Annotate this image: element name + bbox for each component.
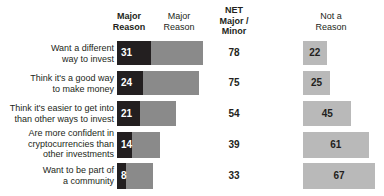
row-category-label: Think it's a good wayto make money — [2, 73, 114, 94]
row-category-label-line: Think it's easier to get into — [2, 103, 114, 114]
bar-segment-minor-reason — [151, 41, 203, 65]
net-value: 78 — [212, 47, 256, 58]
bar-segment-minor-reason — [143, 71, 199, 95]
stacked-bar-chart: Major Reason Major Reason NET Major / Mi… — [0, 0, 384, 196]
bar-value-major-reason: 31 — [121, 48, 132, 58]
bar-value-not-a-reason: 45 — [322, 109, 333, 119]
column-header-major-reason-secondary-line2: Reason — [156, 22, 202, 33]
bar-value-not-a-reason: 61 — [330, 140, 341, 150]
column-header-net-line2: Major / — [204, 16, 264, 27]
bar-segment-minor-reason — [140, 101, 176, 126]
row-category-label-line: Think it's a good way — [2, 73, 114, 84]
column-header-not-a-reason-line1: Not a — [296, 11, 366, 22]
bar-value-major-reason: 24 — [121, 78, 132, 88]
bar-not-a-reason: 22 — [303, 41, 327, 65]
row-category-label-line: other investments — [2, 149, 114, 160]
column-header-net-line3: Minor — [204, 26, 264, 37]
column-header-major-reason-primary: Major Reason — [106, 11, 152, 32]
column-header-net-major-minor: NET Major / Minor — [204, 5, 264, 37]
bar-segment-minor-reason — [132, 132, 160, 158]
bar-segment-major-reason: 21 — [117, 101, 140, 126]
net-value: 54 — [212, 108, 256, 119]
bar-segment-major-reason: 8 — [117, 163, 126, 189]
bar-value-major-reason: 21 — [121, 109, 132, 119]
column-header-major-reason-secondary-line1: Major — [156, 11, 202, 22]
net-value: 75 — [212, 77, 256, 88]
row-category-label-line: to make money — [2, 84, 114, 95]
bar-not-a-reason: 61 — [303, 132, 369, 158]
row-category-label-line: cryptocurrencies than — [2, 139, 114, 150]
column-header-not-a-reason-line2: Reason — [296, 22, 366, 33]
row-category-label-line: than other ways to invest — [2, 114, 114, 125]
column-header-major-reason-primary-line1: Major — [106, 11, 152, 22]
row-category-label: Want a differentway to invest — [2, 43, 114, 64]
row-category-label-line: Want to be part of — [2, 165, 114, 176]
stacked-bar: 14 — [117, 132, 160, 158]
bar-segment-major-reason: 24 — [117, 71, 143, 95]
bar-value-major-reason: 8 — [121, 171, 127, 181]
stacked-bar: 21 — [117, 101, 176, 126]
stacked-bar: 8 — [117, 163, 153, 189]
row-category-label: Want to be part ofa community — [2, 165, 114, 186]
bar-not-a-reason: 67 — [303, 163, 375, 189]
net-value: 39 — [212, 139, 256, 150]
row-category-label: Think it's easier to get intothan other … — [2, 103, 114, 124]
bar-not-a-reason: 45 — [303, 101, 351, 126]
column-header-major-reason-primary-line2: Reason — [106, 22, 152, 33]
row-category-label-line: a community — [2, 176, 114, 187]
row-category-label: Are more confident incryptocurrencies th… — [2, 128, 114, 160]
stacked-bar: 31 — [117, 41, 203, 65]
bar-segment-major-reason: 14 — [117, 132, 132, 158]
stacked-bar: 24 — [117, 71, 199, 95]
bar-segment-major-reason: 31 — [117, 41, 151, 65]
bar-value-major-reason: 14 — [121, 140, 132, 150]
bar-not-a-reason: 25 — [303, 71, 330, 95]
column-header-net-line1: NET — [204, 5, 264, 16]
column-header-major-reason-secondary: Major Reason — [156, 11, 202, 32]
row-category-label-line: Want a different — [2, 43, 114, 54]
net-value: 33 — [212, 170, 256, 181]
bar-value-not-a-reason: 22 — [309, 48, 320, 58]
row-category-label-line: Are more confident in — [2, 128, 114, 139]
bar-value-not-a-reason: 67 — [333, 171, 344, 181]
row-category-label-line: way to invest — [2, 54, 114, 65]
column-header-not-a-reason: Not a Reason — [296, 11, 366, 32]
bar-segment-minor-reason — [126, 163, 154, 189]
bar-value-not-a-reason: 25 — [311, 78, 322, 88]
